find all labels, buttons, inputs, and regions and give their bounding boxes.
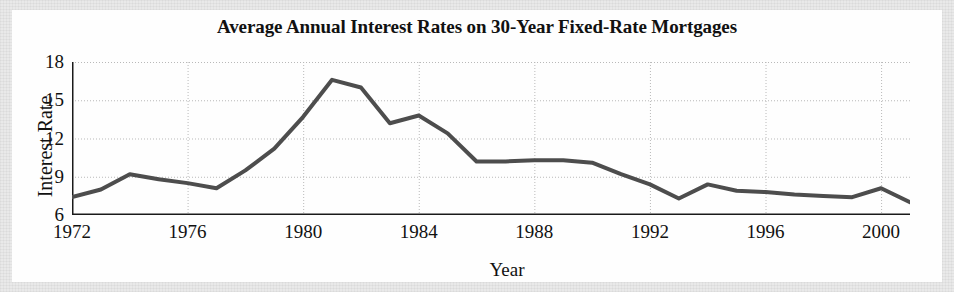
x-tick-label: 1996 [731,221,801,243]
plot-area [72,62,910,215]
x-tick-label: 1984 [384,221,454,243]
x-axis-tick-labels: 19721976198019841988199219962000 [72,221,910,247]
chart-title: Average Annual Interest Rates on 30-Year… [12,16,942,38]
line-chart-svg [72,62,910,215]
figure-frame: Average Annual Interest Rates on 30-Year… [0,0,954,292]
x-tick-label: 1992 [615,221,685,243]
y-tick-label: 18 [30,52,64,71]
y-tick-label: 9 [30,167,64,186]
x-tick-label: 1976 [153,221,223,243]
x-tick-label: 1972 [37,221,107,243]
y-tick-label: 12 [30,129,64,148]
x-axis-title: Year [72,259,942,281]
x-tick-label: 1980 [268,221,338,243]
data-line [72,80,910,202]
chart-panel: Average Annual Interest Rates on 30-Year… [12,10,942,282]
x-tick-label: 1988 [499,221,569,243]
y-tick-label: 15 [30,90,64,109]
y-axis-tick-labels: 69121518 [20,62,64,215]
x-tick-label: 2000 [846,221,916,243]
